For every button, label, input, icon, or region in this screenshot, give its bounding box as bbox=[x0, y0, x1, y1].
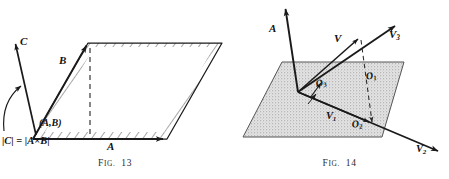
label-origin-o1: O1 bbox=[365, 70, 377, 83]
figure-13-caption: FIG. 13 bbox=[0, 158, 230, 168]
bar-close: | bbox=[47, 135, 49, 146]
caption-smallcaps-13: IG. bbox=[104, 159, 115, 168]
v2-subscript: 2 bbox=[423, 148, 426, 155]
figure-plate: B C A (A,B) |C| = |A×B| FIG. 13 bbox=[0, 0, 449, 179]
vector-c-arrow bbox=[16, 44, 37, 135]
v1-subscript: 1 bbox=[333, 115, 336, 122]
caption-number-14: 14 bbox=[346, 158, 357, 168]
figure-13-drawing bbox=[0, 0, 230, 179]
label-vector-c: C bbox=[20, 36, 27, 47]
figure-13: B C A (A,B) |C| = |A×B| FIG. 13 bbox=[0, 0, 230, 179]
label-magnitude-formula: |C| = |A×B| bbox=[2, 136, 50, 147]
label-origin-o2: O2 bbox=[351, 118, 363, 131]
label-vector-v2: V2 bbox=[416, 144, 426, 156]
label-vector-v3: V3 bbox=[389, 29, 400, 43]
caption-smallcaps-14: IG. bbox=[328, 159, 339, 168]
label-vector-v1: V1 bbox=[326, 111, 336, 123]
figure-14-caption: FIG. 14 bbox=[230, 158, 449, 168]
label-vector-b: B bbox=[59, 55, 66, 66]
label-vector-a: A bbox=[107, 141, 114, 152]
label-vector-a: A bbox=[269, 23, 276, 34]
rotation-sweep-arrow bbox=[4, 86, 21, 131]
v1-base: V bbox=[326, 110, 333, 121]
figure-14: A V V3 V1 V2 O1 O2 O3 FIG. 14 bbox=[230, 0, 449, 179]
v3-subscript: 3 bbox=[396, 34, 400, 42]
bar-eq-bar: | = | bbox=[11, 135, 27, 146]
label-vector-v: V bbox=[334, 33, 341, 44]
label-angle-ab: (A,B) bbox=[39, 118, 62, 128]
v2-base: V bbox=[416, 143, 423, 154]
caption-number-13: 13 bbox=[121, 158, 132, 168]
parallelogram-hatching bbox=[25, 35, 230, 150]
